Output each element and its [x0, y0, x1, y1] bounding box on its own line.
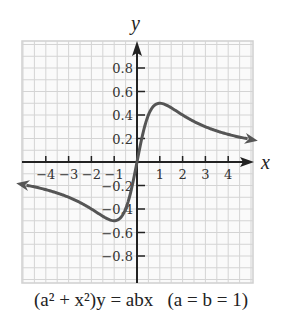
equation-caption: (a² + x²)y = abx (a = b = 1) [0, 289, 282, 311]
function-plot: −4−3−2−112340.80.60.40.2−0.2−0.4−0.6−0.8… [0, 0, 282, 290]
svg-text:0.8: 0.8 [112, 61, 133, 76]
svg-text:−3: −3 [59, 167, 78, 182]
svg-text:−4: −4 [36, 167, 55, 182]
svg-text:−0.2: −0.2 [101, 179, 133, 194]
svg-text:3: 3 [201, 167, 209, 182]
svg-text:0.6: 0.6 [112, 85, 133, 100]
y-axis-label: y [129, 12, 140, 35]
svg-text:0.4: 0.4 [112, 108, 133, 123]
parameters: (a = b = 1) [168, 289, 249, 310]
svg-text:−0.6: −0.6 [101, 226, 133, 241]
x-axis-label: x [260, 151, 270, 173]
svg-text:0.2: 0.2 [112, 132, 133, 147]
svg-text:2: 2 [178, 167, 186, 182]
svg-text:−0.8: −0.8 [101, 249, 133, 264]
svg-text:−2: −2 [82, 167, 101, 182]
svg-text:1: 1 [156, 167, 164, 182]
equation: (a² + x²)y = abx [34, 289, 153, 310]
svg-text:4: 4 [224, 167, 232, 182]
